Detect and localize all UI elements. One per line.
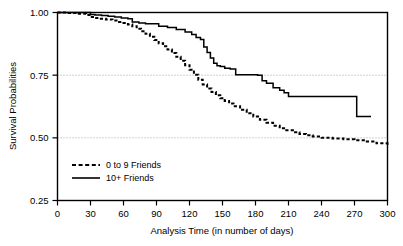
x-tick-label-120: 120: [182, 208, 198, 219]
y-tick-label-0.50: 0.50: [30, 132, 49, 143]
x-tick-label-180: 180: [248, 208, 264, 219]
legend-label-0: 0 to 9 Friends: [106, 160, 162, 170]
y-axis-title: Survival Probabilities: [7, 62, 18, 150]
x-tick-label-240: 240: [314, 208, 330, 219]
x-tick-label-270: 270: [347, 208, 363, 219]
x-axis-title: Analysis Time (in number of days): [150, 225, 293, 236]
legend-label-1: 10+ Friends: [106, 173, 154, 183]
x-tick-label-150: 150: [215, 208, 231, 219]
x-tick-label-210: 210: [281, 208, 297, 219]
x-tick-label-30: 30: [85, 208, 96, 219]
x-tick-label-90: 90: [151, 208, 162, 219]
kaplan-meier-chart: 0.250.500.751.00 03060901201501802102402…: [0, 0, 403, 246]
x-tick-label-300: 300: [380, 208, 396, 219]
x-tick-label-60: 60: [118, 208, 129, 219]
y-tick-label-0.75: 0.75: [30, 70, 49, 81]
x-tick-label-0: 0: [55, 208, 60, 219]
chart-background: [0, 0, 403, 246]
survival-plot-figure: 0.250.500.751.00 03060901201501802102402…: [0, 0, 403, 246]
y-tick-label-1.00: 1.00: [30, 7, 49, 18]
y-tick-label-0.25: 0.25: [30, 195, 49, 206]
